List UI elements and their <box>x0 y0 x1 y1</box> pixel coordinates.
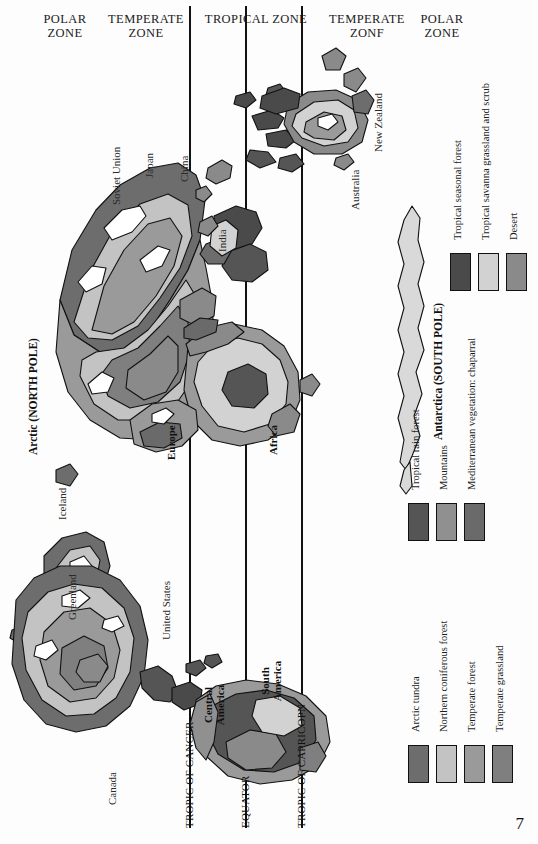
label-australia: Australia <box>349 170 361 210</box>
label-tropic-of-cancer: TROPIC OF CANCER <box>183 722 195 829</box>
page-number: 7 <box>516 814 525 834</box>
legend-swatch-arctic-tundra[interactable] <box>408 745 429 783</box>
label-new-zealand: New Zealand <box>372 93 384 152</box>
legend-label-tropical-savanna: Tropical savanna grassland and scrub <box>480 83 491 240</box>
label-china: China <box>178 156 190 182</box>
legend-label-arctic-tundra: Arctic tundra <box>410 676 421 732</box>
label-equator: EQUATOR <box>239 775 251 828</box>
label-soviet-union: Soviet Union <box>110 147 122 205</box>
label-tropic-of-capricorn: TROPIC OF CAPRICOPN <box>295 704 307 828</box>
label-south-america: SouthAmerica <box>259 646 283 716</box>
legend-swatch-tropical-savanna[interactable] <box>478 253 499 291</box>
label-india: India <box>216 229 228 252</box>
label-greenland: Greenland <box>66 574 78 620</box>
legend-label-mediterranean-chaparral: Mediterranean vegetation: chaparral <box>466 338 477 490</box>
legend-swatch-temperate-forest[interactable] <box>464 745 485 783</box>
legend-group-tropical-right: Tropical seasonal forest Tropical savann… <box>440 120 538 300</box>
legend-label-temperate-forest: Temperate forest <box>466 661 477 732</box>
legend-label-temperate-grassland: Temperate grassland <box>494 646 505 732</box>
label-japan: Japan <box>143 153 155 178</box>
legend-label-tropical-rain-forest: Tropical rain forest <box>410 409 421 490</box>
label-central-america: CentralAmerica <box>202 670 226 740</box>
label-africa: Africa <box>267 425 279 455</box>
label-iceland: Iceland <box>56 488 68 520</box>
legend-group-tropical-left: Tropical rain forest Mountains Mediterra… <box>398 360 538 540</box>
legend-group-temperate: Arctic tundra Northern coniferous forest… <box>398 620 538 800</box>
legend-swatch-mediterranean-chaparral[interactable] <box>464 503 485 541</box>
label-canada: Canada <box>106 772 118 805</box>
legend-swatch-mountains[interactable] <box>436 503 457 541</box>
legend-label-desert: Desert <box>508 213 519 240</box>
legend-label-mountains: Mountains <box>438 445 449 490</box>
legend-label-tropical-seasonal-forest: Tropical seasonal forest <box>452 140 463 240</box>
legend-swatch-tropical-seasonal-forest[interactable] <box>450 253 471 291</box>
label-europe: Europe <box>165 425 177 460</box>
legend-swatch-tropical-rain-forest[interactable] <box>408 503 429 541</box>
label-united-states: United States <box>160 581 172 640</box>
legend-swatch-northern-coniferous-forest[interactable] <box>436 745 457 783</box>
legend-swatch-desert[interactable] <box>506 253 527 291</box>
label-arctic-north-pole: Arctic (NORTH POLE) <box>27 338 39 455</box>
legend-swatch-temperate-grassland[interactable] <box>492 745 513 783</box>
map-page: POLARZONE TEMPERATEZONE TROPICAL ZONE TE… <box>0 0 538 844</box>
legend-label-northern-coniferous-forest: Northern coniferous forest <box>438 621 449 732</box>
